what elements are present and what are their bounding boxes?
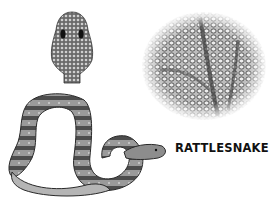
snake-head-illustration <box>48 10 96 84</box>
rattlesnake-label: RATTLESNAKE <box>175 141 269 155</box>
coiled-rattlesnake-illustration <box>6 86 168 198</box>
